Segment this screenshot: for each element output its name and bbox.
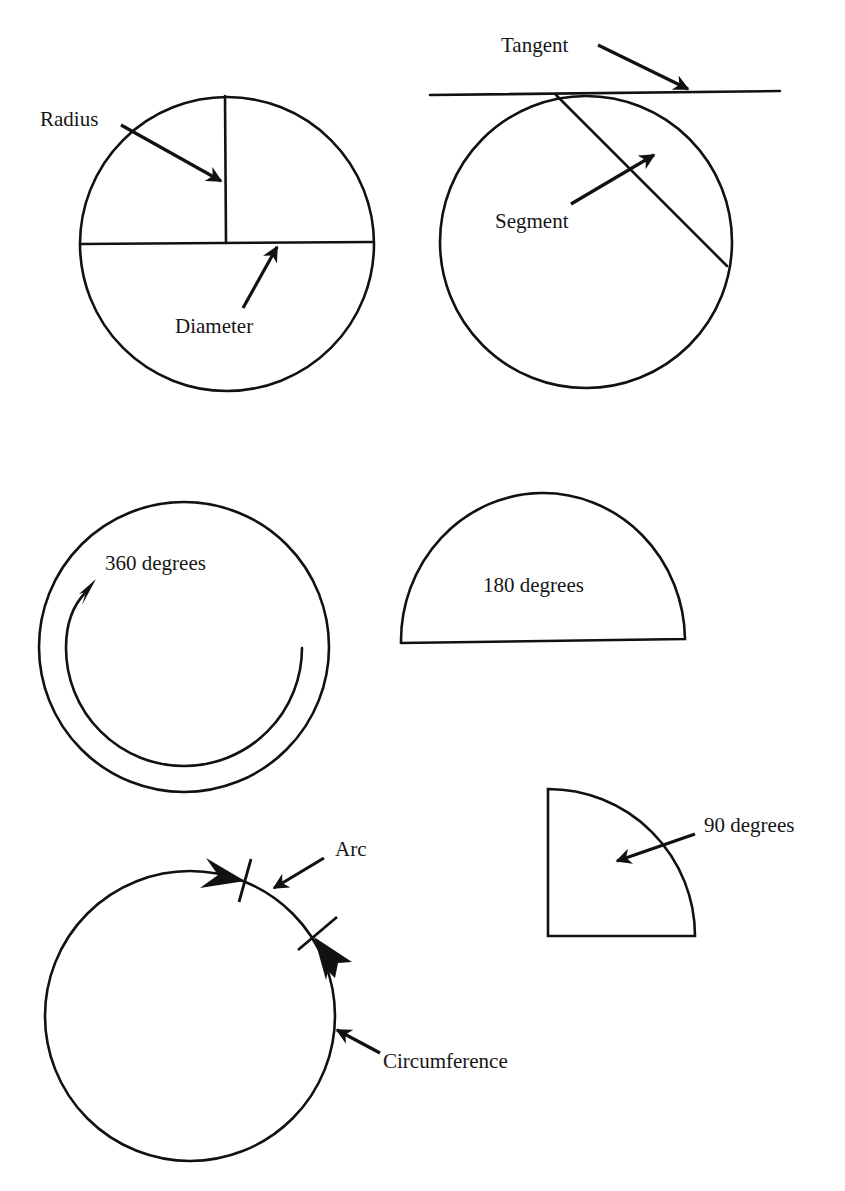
circumference-label: Circumference [383,1049,508,1073]
figure-semicircle: 180 degrees [401,493,685,643]
tangent-arrow-icon [598,45,688,89]
circle-parts-diagram: Radius Diameter Tangent Segment 360 degr… [0,0,845,1191]
diameter-label: Diameter [175,314,253,338]
arc-end-arrowhead-icon [314,937,352,980]
quarter-circle-outline [548,789,695,936]
diameter-arrow-icon [243,247,277,308]
degrees-90-label: 90 degrees [704,813,794,837]
segment-chord [556,95,727,266]
circle-outline [440,96,732,388]
circumference-arrow-icon [337,1030,380,1053]
figure-quarter-circle: 90 degrees [548,789,794,936]
degrees-180-label: 180 degrees [483,573,584,597]
figure-radius-diameter: Radius Diameter [40,96,374,391]
diameter-line [80,242,373,244]
figure-full-circle: 360 degrees [39,502,329,792]
rotation-arc [66,592,302,766]
radius-label: Radius [40,107,98,131]
arc-label: Arc [335,837,366,861]
tangent-line [430,91,780,95]
rotation-arrowhead-icon [79,579,96,605]
segment-label: Segment [495,209,569,233]
tangent-label: Tangent [501,33,569,57]
circle-outline [39,502,329,792]
radius-line [225,96,226,243]
semicircle-outline [401,493,685,643]
arc-arrow-icon [274,858,324,888]
figure-tangent-segment: Tangent Segment [430,33,780,388]
figure-arc-circumference: Arc Circumference [45,837,508,1161]
radius-arrow-icon [121,125,221,181]
degrees-360-label: 360 degrees [105,551,206,575]
circle-outline [45,871,335,1161]
